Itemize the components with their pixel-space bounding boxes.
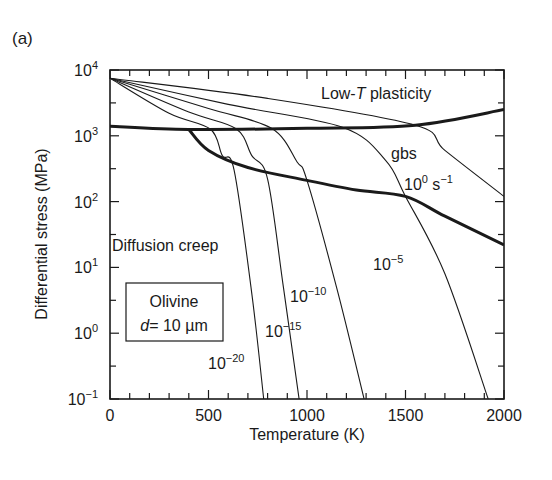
x-tick-label: 500 [195,407,222,424]
plot-frame [110,70,504,399]
region-diffusion-creep: Diffusion creep [112,237,219,254]
strain-rate-label: 10−15 [265,320,301,340]
y-tick-label: 100 [74,322,98,342]
strain-rate-label: 100 s−1 [404,173,453,193]
mechanism-boundary [110,110,504,130]
grain-size: d= 10 µm [140,317,207,334]
x-axis-label: Temperature (K) [249,426,365,443]
y-tick-label: 103 [74,125,98,145]
y-tick-label: 101 [74,256,98,276]
strain-rate-label: 10−5 [373,253,403,273]
mechanism-boundary [189,129,504,245]
region-gbs: gbs [391,145,417,162]
strain-rate-label: 10−20 [208,352,244,372]
strain-rate-label: 10−10 [290,285,326,305]
x-tick-label: 1000 [289,407,325,424]
y-tick-label: 102 [74,191,98,211]
y-axis-label: Differential stress (MPa) [33,148,50,319]
x-tick-label: 0 [106,407,115,424]
y-tick-label: 104 [74,59,98,79]
panel-label: (a) [12,29,33,48]
y-tick-label: 10−1 [68,388,98,408]
axis-ticks [110,70,504,399]
strain-rate-labels: 100 s−110−510−1010−1510−20 [208,173,453,372]
x-tick-label: 1500 [388,407,424,424]
x-tick-label: 2000 [486,407,522,424]
region-low-t-plasticity: Low-T plasticity [321,85,431,102]
stress-temperature-chart: (a) 050010001500200010410310210110010−1 … [0,0,552,480]
material-name: Olivine [150,293,199,310]
